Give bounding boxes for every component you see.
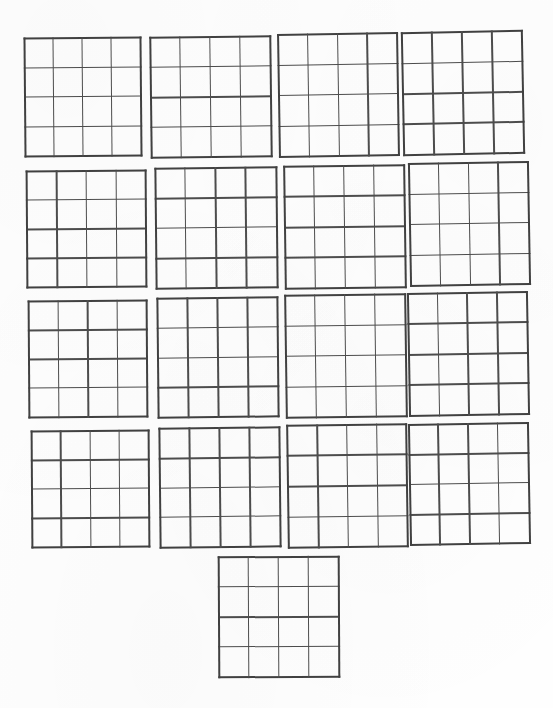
grid-cell[interactable] [59,388,87,415]
grid-cell[interactable] [439,385,467,414]
grid-cell[interactable] [83,97,110,125]
grid-cell[interactable] [156,258,185,286]
grid-cell[interactable] [27,258,55,285]
grid-cell[interactable] [439,194,467,223]
grid-cell[interactable] [58,301,86,328]
grid-cell[interactable] [88,301,116,328]
grid-cell[interactable] [186,168,215,196]
grid-cell[interactable] [91,489,118,516]
grid-cell[interactable] [181,97,209,125]
grid-cell[interactable] [308,34,336,63]
grid-figure[interactable] [26,170,148,289]
grid-cell[interactable] [82,38,109,66]
grid-cell[interactable] [160,518,188,546]
grid-cell[interactable] [27,171,55,198]
grid-cell[interactable] [158,358,186,386]
grid-cell[interactable] [440,484,468,512]
grid-cell[interactable] [279,95,307,124]
grid-cell[interactable] [59,359,87,386]
grid-cell[interactable] [158,328,186,356]
grid-cell[interactable] [86,171,114,198]
grid-cell[interactable] [112,97,139,125]
grid-cell[interactable] [344,166,372,195]
grid-cell[interactable] [378,516,406,545]
grid-cell[interactable] [500,253,528,282]
grid-cell[interactable] [241,126,269,154]
grid-cell[interactable] [116,200,144,227]
grid-cell[interactable] [403,94,432,123]
grid-cell[interactable] [492,31,521,60]
grid-cell[interactable] [218,357,246,385]
grid-cell[interactable] [497,292,525,321]
grid-cell[interactable] [151,97,179,125]
grid-cell[interactable] [217,298,245,326]
grid-cell[interactable] [219,617,247,645]
grid-cell[interactable] [287,425,315,454]
grid-cell[interactable] [309,617,337,645]
grid-cell[interactable] [439,354,467,383]
grid-cell[interactable] [470,514,498,542]
grid-cell[interactable] [315,197,343,226]
grid-cell[interactable] [469,454,497,482]
grid-cell[interactable] [246,167,275,195]
grid-cell[interactable] [402,33,431,62]
grid-cell[interactable] [56,171,84,198]
grid-cell[interactable] [499,383,527,412]
grid-cell[interactable] [285,227,313,256]
grid-cell[interactable] [498,423,526,451]
grid-figure[interactable] [158,426,281,548]
grid-cell[interactable] [375,257,403,286]
grid-cell[interactable] [190,488,218,516]
grid-cell[interactable] [250,517,278,545]
grid-cell[interactable] [409,455,437,483]
grid-cell[interactable] [156,198,185,226]
grid-cell[interactable] [468,163,496,192]
grid-cell[interactable] [286,326,314,355]
grid-cell[interactable] [469,193,497,222]
grid-cell[interactable] [408,324,436,353]
grid-cell[interactable] [157,298,185,326]
grid-cell[interactable] [439,424,467,452]
grid-cell[interactable] [368,94,396,123]
grid-cell[interactable] [91,518,118,545]
grid-cell[interactable] [211,67,239,95]
grid-cell[interactable] [434,124,463,153]
grid-cell[interactable] [150,37,178,65]
grid-cell[interactable] [411,255,439,284]
grid-cell[interactable] [462,31,491,60]
grid-cell[interactable] [117,330,145,357]
grid-cell[interactable] [220,487,248,515]
grid-cell[interactable] [338,64,366,93]
grid-cell[interactable] [316,356,344,385]
grid-cell[interactable] [188,358,216,386]
grid-cell[interactable] [409,164,437,193]
grid-cell[interactable] [118,388,146,415]
grid-cell[interactable] [249,427,277,455]
grid-figure[interactable] [277,32,400,158]
grid-cell[interactable] [348,486,376,515]
grid-cell[interactable] [493,92,522,121]
grid-cell[interactable] [120,518,147,545]
grid-cell[interactable] [438,324,466,353]
grid-cell[interactable] [376,386,404,415]
grid-cell[interactable] [409,425,437,453]
grid-cell[interactable] [160,488,188,516]
grid-figure[interactable] [407,291,530,417]
grid-cell[interactable] [440,224,468,253]
grid-cell[interactable] [111,38,138,66]
grid-cell[interactable] [54,127,81,155]
grid-figure[interactable] [408,161,531,287]
grid-cell[interactable] [181,127,209,155]
grid-cell[interactable] [57,200,85,227]
grid-cell[interactable] [190,458,218,486]
grid-cell[interactable] [309,557,337,585]
grid-cell[interactable] [345,227,373,256]
grid-cell[interactable] [286,356,314,385]
grid-cell[interactable] [116,258,144,285]
grid-cell[interactable] [279,647,307,675]
grid-cell[interactable] [345,196,373,225]
grid-cell[interactable] [117,301,145,328]
grid-cell[interactable] [250,457,278,485]
grid-cell[interactable] [468,323,496,352]
grid-cell[interactable] [88,359,116,386]
